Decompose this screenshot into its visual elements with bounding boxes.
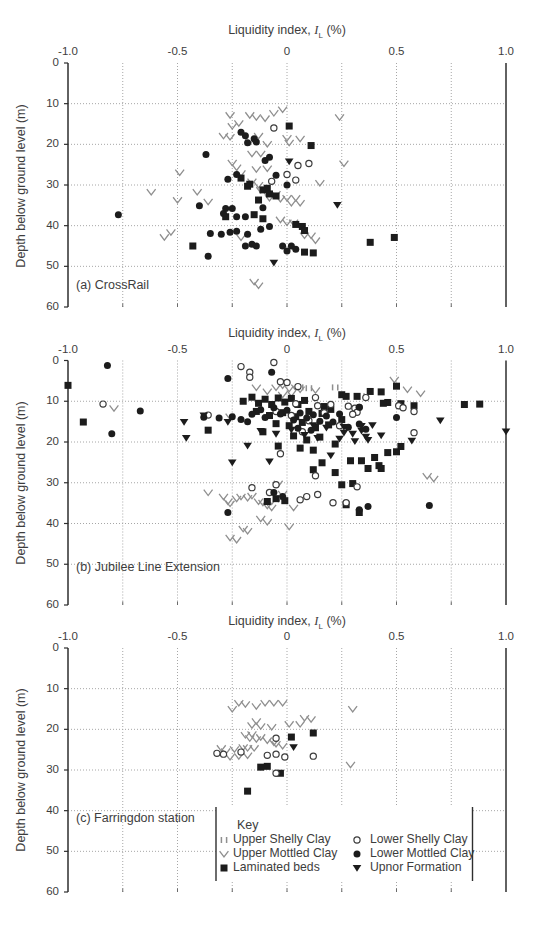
filled-circle-icon bbox=[253, 138, 260, 145]
open-chevron-icon bbox=[147, 189, 156, 195]
filled-square-icon bbox=[308, 142, 315, 149]
filled-circle-icon bbox=[216, 414, 223, 421]
filled-square-icon bbox=[275, 443, 282, 450]
filled-circle-icon bbox=[266, 223, 273, 230]
open-circle-icon bbox=[343, 500, 349, 506]
filled-square-icon bbox=[251, 211, 258, 218]
filled-square-icon bbox=[264, 498, 271, 505]
filled-circle-icon bbox=[365, 503, 372, 510]
filled-circle-icon bbox=[137, 408, 144, 415]
filled-square-icon bbox=[378, 388, 385, 395]
open-chevron-icon bbox=[263, 519, 272, 525]
filled-square-icon bbox=[319, 459, 326, 466]
open-chevron-icon bbox=[226, 134, 235, 140]
open-circle-icon bbox=[282, 754, 288, 760]
filled-square-icon bbox=[338, 481, 345, 488]
x-axis-title-c: Liquidity index, IL (%) bbox=[68, 614, 506, 631]
open-circle-icon bbox=[411, 430, 417, 436]
filled-square-icon bbox=[461, 401, 468, 408]
key-item-lower_shelly: Lower Shelly Clay bbox=[370, 832, 468, 846]
open-chevron-icon bbox=[167, 229, 176, 235]
open-chevron-icon bbox=[335, 114, 344, 120]
open-chevron-icon bbox=[403, 387, 412, 393]
filled-square-icon bbox=[332, 441, 339, 448]
filled-triangle-icon bbox=[327, 452, 336, 459]
filled-circle-icon bbox=[224, 176, 231, 183]
open-chevron-icon bbox=[252, 385, 261, 391]
filled-square-icon bbox=[288, 734, 295, 741]
open-chevron-icon bbox=[390, 377, 399, 383]
filled-square-icon bbox=[255, 197, 262, 204]
filled-square-icon bbox=[347, 457, 354, 464]
filled-circle-icon bbox=[207, 230, 214, 237]
filled-circle-icon bbox=[224, 509, 231, 516]
filled-square-icon bbox=[365, 465, 372, 472]
open-chevron-icon bbox=[261, 700, 270, 706]
open-chevron-icon bbox=[346, 762, 355, 768]
filled-circle-icon bbox=[292, 246, 299, 253]
filled-square-icon bbox=[292, 221, 299, 228]
filled-circle-icon bbox=[356, 506, 363, 513]
filled-triangle-icon bbox=[502, 428, 511, 435]
x-axis-title-b: Liquidity index, IL (%) bbox=[68, 326, 506, 343]
filled-circle-icon bbox=[268, 369, 275, 376]
filled-square-icon bbox=[391, 234, 398, 241]
filled-circle-icon bbox=[303, 414, 310, 421]
open-circle-icon bbox=[310, 753, 316, 759]
open-chevron-icon bbox=[289, 505, 298, 511]
filled-triangle-icon bbox=[289, 744, 298, 751]
open-chevron-icon bbox=[278, 700, 287, 706]
filled-circle-icon bbox=[266, 154, 273, 161]
open-chevron-icon bbox=[416, 391, 425, 397]
filled-square-icon bbox=[384, 449, 391, 456]
open-circle-icon bbox=[411, 408, 417, 414]
open-circle-icon bbox=[328, 401, 334, 407]
open-chevron-icon bbox=[252, 114, 261, 120]
filled-circle-icon bbox=[310, 411, 317, 418]
filled-circle-icon bbox=[356, 404, 363, 411]
filled-square-icon bbox=[80, 419, 87, 426]
filled-circle-icon bbox=[238, 416, 245, 423]
open-chevron-icon bbox=[160, 234, 169, 240]
open-chevron-icon bbox=[296, 136, 305, 142]
filled-square-icon bbox=[310, 729, 317, 736]
filled-square-icon bbox=[221, 865, 228, 872]
x-axis-title-a: Liquidity index, IL (%) bbox=[68, 23, 506, 40]
filled-circle-icon bbox=[253, 243, 260, 250]
x-tick-label: 0 bbox=[265, 45, 309, 57]
filled-circle-icon bbox=[329, 419, 336, 426]
y-tick-label: 40 bbox=[19, 517, 59, 529]
open-chevron-icon bbox=[269, 110, 278, 116]
filled-square-icon bbox=[244, 788, 251, 795]
open-chevron-icon bbox=[261, 116, 270, 122]
filled-circle-icon bbox=[426, 502, 433, 509]
filled-circle-icon bbox=[323, 412, 330, 419]
open-circle-icon bbox=[214, 750, 220, 756]
filled-square-icon bbox=[380, 400, 387, 407]
filled-square-icon bbox=[205, 427, 212, 434]
open-circle-icon bbox=[247, 374, 253, 380]
filled-square-icon bbox=[275, 394, 282, 401]
filled-triangle-icon bbox=[265, 459, 274, 466]
filled-triangle-icon bbox=[272, 431, 281, 438]
open-circle-icon bbox=[293, 401, 299, 407]
y-tick-label: 60 bbox=[19, 598, 59, 610]
key-item-upper_mottled: Upper Mottled Clay bbox=[233, 846, 337, 860]
open-circle-icon bbox=[273, 482, 279, 488]
filled-square-icon bbox=[246, 181, 253, 188]
filled-triangle-icon bbox=[224, 419, 233, 426]
x-tick-label: -0.5 bbox=[156, 630, 200, 642]
filled-circle-icon bbox=[270, 489, 277, 496]
open-chevron-icon bbox=[278, 743, 287, 749]
filled-square-icon bbox=[301, 397, 308, 404]
filled-square-icon bbox=[262, 396, 269, 403]
filled-square-icon bbox=[367, 388, 374, 395]
open-chevron-icon bbox=[311, 238, 320, 244]
open-chevron-icon bbox=[285, 524, 294, 530]
filled-square-icon bbox=[343, 393, 350, 400]
open-chevron-icon bbox=[256, 723, 265, 729]
open-chevron-icon bbox=[296, 721, 305, 727]
x-axis-title-suffix: (%) bbox=[323, 326, 346, 340]
open-circle-icon bbox=[220, 751, 226, 757]
open-circle-icon bbox=[330, 500, 336, 506]
